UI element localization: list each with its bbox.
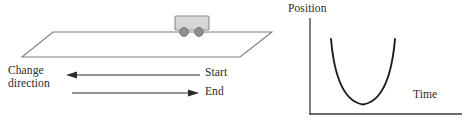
start-label: Start [205, 66, 227, 79]
figure-canvas [0, 0, 469, 123]
physics-figure: Change direction Start End Position Time [0, 0, 469, 123]
cart-wheel-left [180, 28, 189, 37]
end-arrow [72, 89, 199, 96]
cart [175, 16, 209, 36]
position-time-graph [309, 18, 462, 114]
change-direction-label: Change direction [8, 64, 50, 90]
graph-y-axis-label: Position [288, 2, 327, 15]
end-label: End [205, 85, 224, 98]
cart-wheel-right [195, 28, 204, 37]
change-direction-arrow [66, 71, 200, 78]
graph-x-axis-label: Time [413, 88, 437, 101]
position-time-curve [331, 39, 395, 105]
cart-body [175, 16, 209, 30]
track-surface-parallelogram [22, 32, 272, 57]
change-direction-arrow-head [66, 71, 77, 78]
cart-on-track-diagram [22, 16, 272, 97]
end-arrow-head [188, 89, 199, 96]
